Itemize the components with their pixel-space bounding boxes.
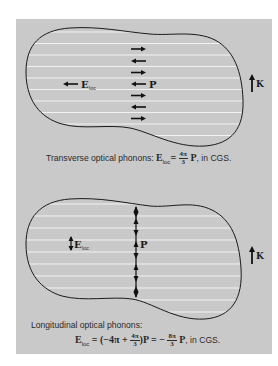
polarization-label: P: [140, 239, 148, 250]
arrow-left-icon: [131, 82, 146, 87]
caption-suffix: , in CGS.: [185, 335, 220, 345]
arrow-down-icon: [134, 276, 139, 282]
phonon-diagram: P E loc K: [0, 0, 278, 366]
field-label-sub: loc: [89, 85, 96, 91]
eq-part2: )P = −: [140, 334, 165, 345]
transverse-specimen: P E loc K: [20, 28, 265, 147]
arrow-up-icon: [134, 206, 139, 212]
fraction: 4π3: [130, 333, 139, 348]
equation: Eloc = (−4π + 4π3)P = − 8π3 P: [75, 334, 185, 345]
arrow-right-icon: [131, 116, 146, 121]
arrow-down-icon: [134, 292, 139, 298]
wavefront-stripes: [20, 204, 250, 312]
arrow-down-icon: [134, 212, 139, 218]
fraction: 4π3: [179, 151, 188, 166]
arrow-down-icon: [134, 253, 139, 259]
field-label: E: [74, 239, 82, 250]
field-label-sub: loc: [82, 245, 89, 251]
field-arrow-left-icon: [63, 82, 78, 87]
eq-part1: = (−4π +: [92, 334, 128, 345]
eq-lhs-sub: loc: [82, 341, 90, 347]
longitudinal-specimen: P E loc K: [20, 199, 265, 320]
fraction-denominator: 3: [130, 341, 139, 348]
equation: Eloc= 4π3 P: [156, 152, 197, 163]
fraction: 8π3: [167, 333, 176, 348]
caption-suffix: , in CGS.: [197, 153, 232, 163]
caption-text: Longitudinal optical phonons:: [31, 320, 142, 330]
field-label: E: [81, 79, 89, 90]
arrow-right-icon: [131, 47, 146, 52]
polarization-label: P: [149, 79, 157, 90]
wavevector-arrow-up-icon: [249, 74, 255, 92]
field-arrow-down-icon: [69, 236, 74, 251]
eq-lhs: E: [75, 334, 82, 345]
arrow-up-icon: [134, 218, 139, 224]
eq-lhs: E: [156, 152, 163, 163]
specimen-outline: [26, 28, 243, 147]
arrow-left-icon: [131, 105, 146, 110]
fraction-denominator: 3: [179, 159, 188, 166]
fraction-denominator: 3: [167, 341, 176, 348]
arrow-left-icon: [131, 59, 146, 64]
arrow-up-icon: [134, 286, 139, 292]
caption-text: Transverse optical phonons:: [46, 153, 154, 163]
arrow-up-icon: [134, 241, 139, 247]
arrow-up-icon: [134, 264, 139, 270]
wavevector-arrow-up-icon: [249, 246, 255, 264]
wavevector-label: K: [256, 79, 265, 89]
polarization-arrows: [131, 47, 146, 122]
arrow-down-icon: [134, 230, 139, 236]
specimen-outline: [26, 199, 241, 320]
arrow-right-icon: [131, 70, 146, 75]
longitudinal-caption-line1: Longitudinal optical phonons:: [31, 320, 142, 330]
transverse-caption: Transverse optical phonons: Eloc= 4π3 P,…: [46, 151, 231, 166]
longitudinal-caption-line2: Eloc = (−4π + 4π3)P = − 8π3 P, in CGS.: [75, 333, 220, 348]
arrow-right-icon: [131, 93, 146, 98]
eq-equals: =: [170, 152, 176, 163]
wavevector-label: K: [256, 251, 265, 261]
